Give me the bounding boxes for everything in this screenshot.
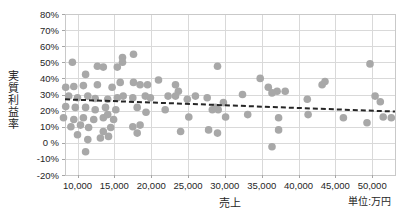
scatter-point [119, 92, 127, 100]
scatter-point [102, 104, 110, 112]
scatter-point [82, 71, 90, 79]
y-tick-label: 70% [40, 25, 60, 36]
scatter-point [239, 91, 247, 99]
scatter-point [321, 78, 329, 86]
scatter-point [147, 94, 155, 102]
scatter-chart: 80%70%60%50%40%30%20%10%0 %-10%-20%10,00… [0, 0, 403, 211]
scatter-point [80, 114, 88, 122]
scatter-point [77, 121, 85, 129]
scatter-point [108, 84, 116, 92]
x-tick-label: 20,000 [137, 180, 166, 191]
scatter-point [203, 94, 211, 102]
y-tick-label: 50% [40, 57, 60, 68]
scatter-point [62, 103, 70, 111]
scatter-point [388, 114, 396, 122]
scatter-point [192, 92, 200, 100]
scatter-point [377, 98, 385, 106]
scatter-point [60, 114, 68, 122]
scatter-point [275, 126, 283, 134]
scatter-point [70, 83, 78, 91]
scatter-point [268, 89, 276, 97]
y-axis-title: 実質利益率 [6, 57, 20, 143]
scatter-point [112, 106, 120, 114]
y-tick-label: 80% [40, 9, 60, 20]
y-tick-label: 0 % [43, 137, 60, 148]
scatter-point [133, 129, 141, 137]
scatter-point [363, 119, 371, 127]
scatter-point [371, 92, 379, 100]
scatter-point [82, 148, 90, 156]
scatter-point [185, 113, 193, 121]
x-axis-title: 売上 [65, 194, 395, 210]
x-tick-label: 50,000 [358, 180, 387, 191]
scatter-point [85, 124, 93, 132]
y-tick-label: 10% [40, 121, 60, 132]
scatter-point [70, 116, 78, 124]
x-tick-label: 15,000 [100, 180, 129, 191]
scatter-point [164, 92, 172, 100]
scatter-point [116, 79, 124, 87]
scatter-point [129, 94, 137, 102]
scatter-point [214, 106, 222, 114]
scatter-point [172, 92, 180, 100]
scatter-point [107, 124, 115, 132]
y-tick-label: 40% [40, 73, 60, 84]
scatter-point [161, 106, 169, 114]
y-tick-label: 20% [40, 105, 60, 116]
scatter-point [62, 84, 70, 92]
scatter-point [110, 116, 118, 124]
y-tick-label: 30% [40, 89, 60, 100]
scatter-point [129, 123, 137, 131]
scatter-point [97, 134, 105, 142]
x-tick-label: 10,000 [63, 180, 92, 191]
scatter-point [214, 129, 222, 137]
scatter-point [177, 128, 185, 136]
scatter-point [119, 59, 127, 67]
scatter-point [90, 116, 98, 124]
scatter-point [144, 81, 152, 89]
scatter-point [94, 81, 102, 89]
scatter-point [130, 79, 138, 87]
scatter-point [136, 81, 144, 89]
scatter-point [104, 96, 112, 104]
x-tick-label: 40,000 [284, 180, 313, 191]
x-tick-label: 35,000 [247, 180, 276, 191]
scatter-point [281, 88, 289, 96]
scatter-point [84, 136, 92, 144]
y-tick-label: 60% [40, 41, 60, 52]
scatter-point [100, 63, 108, 71]
scatter-point [275, 114, 283, 122]
scatter-point [133, 104, 141, 112]
scatter-point [222, 113, 230, 121]
scatter-point [105, 133, 113, 141]
scatter-point [205, 126, 213, 134]
scatter-point [366, 60, 374, 68]
scatter-point [82, 104, 90, 112]
scatter-point [379, 113, 387, 121]
scatter-point [172, 81, 180, 89]
scatter-point [104, 111, 112, 119]
scatter-point [214, 63, 222, 71]
scatter-point [136, 121, 144, 129]
x-tick-label: 30,000 [210, 180, 239, 191]
scatter-point [142, 108, 150, 116]
scatter-point [256, 75, 264, 83]
scatter-point [130, 51, 138, 59]
scatter-point [91, 106, 99, 114]
scatter-point [155, 76, 163, 84]
scatter-point [340, 114, 348, 122]
unit-label: 単位:万円 [348, 193, 391, 208]
x-tick-label: 45,000 [321, 180, 350, 191]
scatter-point [67, 123, 75, 131]
y-tick-label: -20% [37, 170, 60, 181]
x-tick-label: 25,000 [173, 180, 202, 191]
y-tick-label: -10% [37, 153, 60, 164]
scatter-point [184, 96, 192, 104]
scatter-point [304, 111, 312, 119]
scatter-point [69, 59, 77, 67]
scatter-point [268, 143, 276, 151]
scatter-point [72, 104, 80, 112]
scatter-point [244, 111, 252, 119]
scatter-point [304, 96, 312, 104]
scatter-point [84, 92, 92, 100]
